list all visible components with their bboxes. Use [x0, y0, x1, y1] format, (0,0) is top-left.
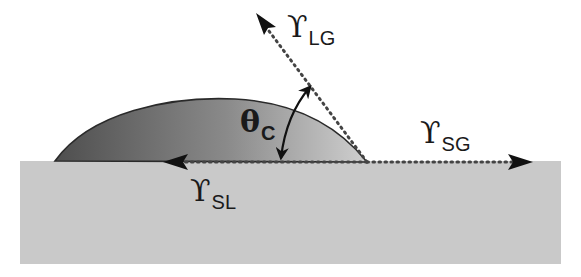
gamma-sg-subscript: SG [442, 133, 471, 155]
gamma-symbol: ϒ [190, 173, 211, 208]
gamma-sl-subscript: SL [212, 191, 236, 213]
gamma-sg-label: ϒSG [420, 118, 471, 148]
gamma-lg-label: ϒLG [287, 12, 335, 42]
substrate [20, 161, 561, 264]
gamma-lg-subscript: LG [309, 27, 336, 49]
gamma-symbol: ϒ [420, 115, 441, 150]
gamma-symbol: ϒ [287, 9, 308, 44]
gamma-sl-label: ϒSL [190, 176, 236, 206]
theta-symbol: θ [240, 104, 260, 139]
liquid-drop [55, 99, 367, 162]
theta-c-subscript: C [261, 122, 275, 144]
gamma-lg-arrowhead [256, 13, 276, 35]
theta-c-label: θC [240, 107, 275, 137]
